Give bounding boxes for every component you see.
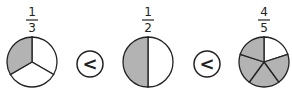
fraction-3-pie — [239, 37, 289, 87]
fraction-2-label: 1 2 — [142, 5, 154, 35]
fraction-1-numerator: 1 — [28, 5, 36, 19]
fraction-3-denominator: 5 — [260, 21, 268, 35]
comparison-1: < — [77, 51, 103, 77]
fraction-1-label: 1 3 — [26, 5, 38, 35]
fraction-2-slice-1 — [148, 37, 173, 87]
fraction-2-denominator: 2 — [144, 21, 152, 35]
fraction-1-denominator: 3 — [28, 21, 36, 35]
comparison-1-symbol: < — [82, 53, 97, 74]
fraction-comparison-diagram: 1 3 < 1 2 < 4 5 — [0, 0, 292, 93]
comparison-2-symbol: < — [199, 53, 214, 74]
fraction-2-numerator: 1 — [144, 5, 152, 19]
fraction-2-pie — [123, 37, 173, 87]
fraction-1-pie — [7, 37, 57, 87]
fraction-2-slice-2-shaded — [123, 37, 148, 87]
comparison-2: < — [194, 51, 220, 77]
fraction-3-label: 4 5 — [258, 5, 270, 35]
fraction-3-numerator: 4 — [260, 5, 268, 19]
